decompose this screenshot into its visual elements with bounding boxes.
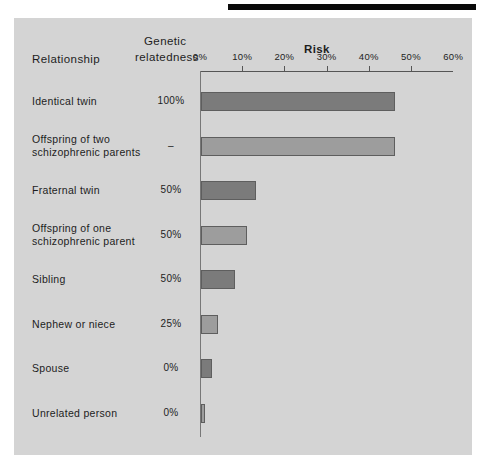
row-label: Nephew or niece [32,318,115,331]
row-genetic-relatedness: 100% [153,95,189,106]
row-label: Spouse [32,362,69,375]
row-genetic-relatedness: 0% [153,407,189,418]
row-label: Fraternal twin [32,184,100,197]
x-axis-line [200,71,453,72]
risk-bar [201,226,247,245]
row-genetic-relatedness: 50% [153,273,189,284]
x-axis-tick-label: 30% [317,51,337,62]
risk-bar [201,404,205,423]
x-axis-tick-label: 50% [401,51,421,62]
row-label: Identical twin [32,95,97,108]
row-genetic-relatedness: 0% [153,362,189,373]
risk-bar [201,270,235,289]
row-label: Offspring of twoschizophrenic parents [32,133,140,159]
x-axis-tick-label: 0% [193,51,207,62]
x-axis-tick-label: 40% [359,51,379,62]
row-genetic-relatedness: 25% [153,318,189,329]
risk-bar [201,315,218,334]
risk-bar [201,181,256,200]
x-axis-tick-label: 60% [443,51,463,62]
row-genetic-relatedness: 50% [153,229,189,240]
risk-bar [201,137,395,156]
row-genetic-relatedness: – [153,140,189,151]
row-label: Sibling [32,273,66,286]
row-label: Unrelated person [32,407,117,420]
row-label: Offspring of oneschizophrenic parent [32,222,135,248]
risk-bar [201,92,395,111]
x-axis-tick-label: 10% [232,51,252,62]
row-genetic-relatedness: 50% [153,184,189,195]
x-axis-tick-label: 20% [274,51,294,62]
top-rule [228,4,476,10]
y-axis-line [200,71,201,437]
risk-bar [201,359,212,378]
chart-panel: Relationship Genetic relatedness Risk 0%… [14,18,472,455]
